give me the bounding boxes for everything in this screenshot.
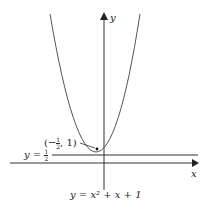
y-axis-arrow-icon: [100, 12, 108, 20]
graph-canvas: [0, 0, 207, 212]
line-label: y = 12: [24, 149, 48, 162]
vertex-label-suffix: , 1): [60, 137, 77, 148]
fraction-denominator: 2: [44, 156, 48, 162]
fraction: 12: [44, 149, 48, 162]
x-axis-arrow-icon: [192, 159, 199, 167]
vertex-label: (−12, 1): [44, 137, 77, 150]
vertex-point: [96, 148, 99, 151]
line-label-prefix: y =: [24, 149, 44, 160]
y-axis-label: y: [110, 13, 116, 23]
vertex-label-prefix: (−: [44, 137, 56, 148]
x-axis-label: x: [191, 169, 197, 179]
equation-label: y = x² + x + 1: [70, 190, 142, 200]
parabola-curve: [50, 14, 140, 152]
